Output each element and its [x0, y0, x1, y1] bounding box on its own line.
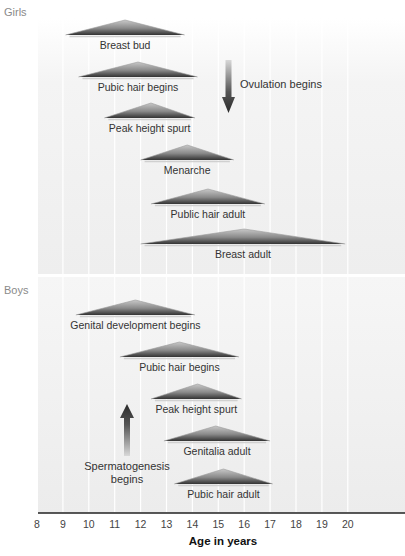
event-label: Genitalia adult: [183, 445, 250, 457]
event-label: Pubic hair begins: [139, 361, 220, 373]
x-tick-label: 8: [34, 518, 40, 530]
x-tick-label: 14: [187, 518, 199, 530]
x-tick-label: 18: [290, 518, 302, 530]
x-tick-label: 11: [109, 518, 120, 530]
puberty-timeline-chart: Breast budPubic hair beginsPeak height s…: [0, 0, 405, 556]
event-label: Pubic hair adult: [187, 488, 259, 500]
ovulation-label: Ovulation begins: [240, 78, 322, 90]
event-label: Breast adult: [215, 248, 271, 260]
event-label: Peak height spurt: [155, 403, 237, 415]
event-label: Menarche: [164, 164, 211, 176]
x-tick-label: 13: [161, 518, 173, 530]
event-label: Breast bud: [100, 39, 151, 51]
x-tick-label: 10: [83, 518, 95, 530]
event-label: Genital development begins: [70, 319, 200, 331]
x-axis-title: Age in years: [189, 535, 257, 547]
x-tick-label: 16: [238, 518, 250, 530]
x-tick-label: 20: [342, 518, 354, 530]
event-label: Pubic hair begins: [98, 81, 179, 93]
spermatogenesis-label-line2: begins: [111, 473, 144, 485]
x-tick-label: 15: [212, 518, 224, 530]
x-tick-label: 9: [60, 518, 66, 530]
x-tick-label: 12: [135, 518, 147, 530]
x-tick-label: 17: [264, 518, 276, 530]
x-tick-label: 19: [316, 518, 328, 530]
spermatogenesis-label-line1: Spermatogenesis: [84, 460, 170, 472]
event-label: Peak height spurt: [109, 122, 191, 134]
event-label: Public hair adult: [171, 208, 246, 220]
x-axis-tick-labels: 891011121314151617181920: [34, 518, 354, 530]
